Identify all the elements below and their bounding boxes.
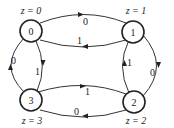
state-label: 2: [132, 97, 137, 108]
state-node-1: 1 z = 1: [122, 5, 146, 43]
state-output: z = 1: [125, 5, 147, 16]
edge-label: 0: [83, 16, 88, 27]
edge-label: 0: [11, 55, 16, 66]
edge-2-to-1: 1: [122, 40, 132, 93]
state-diagram: 0 1 0 1 1 0 1 0: [0, 0, 174, 128]
edge-3-to-0: 0: [8, 38, 24, 92]
arrow-icon: [41, 60, 46, 66]
state-label: 0: [29, 26, 34, 37]
edge-1-to-0: 1: [40, 35, 126, 49]
edge-2-to-3: 0: [40, 106, 126, 119]
state-output: z = 3: [21, 115, 43, 126]
edge-0-to-3: 1: [35, 41, 46, 91]
arrow-icon: [82, 114, 88, 119]
state-label: 3: [29, 95, 34, 106]
edge-label: 1: [127, 57, 132, 68]
edge-0-to-1: 0: [40, 12, 126, 27]
state-output: z = 2: [125, 115, 147, 126]
edge-label: 1: [35, 66, 40, 77]
state-output: z = 0: [20, 5, 42, 16]
state-node-2: 2 z = 2: [123, 91, 146, 126]
state-node-3: 3 z = 3: [20, 89, 42, 126]
edge-label: 1: [85, 86, 90, 97]
edge-label: 0: [150, 67, 155, 78]
edge-1-to-2: 0: [143, 35, 161, 96]
state-node-0: 0 z = 0: [20, 5, 42, 42]
edge-3-to-2: 1: [38, 84, 126, 97]
edge-label: 0: [74, 106, 79, 117]
arrow-icon: [82, 44, 88, 49]
edge-label: 1: [77, 35, 82, 46]
state-label: 1: [131, 27, 136, 38]
